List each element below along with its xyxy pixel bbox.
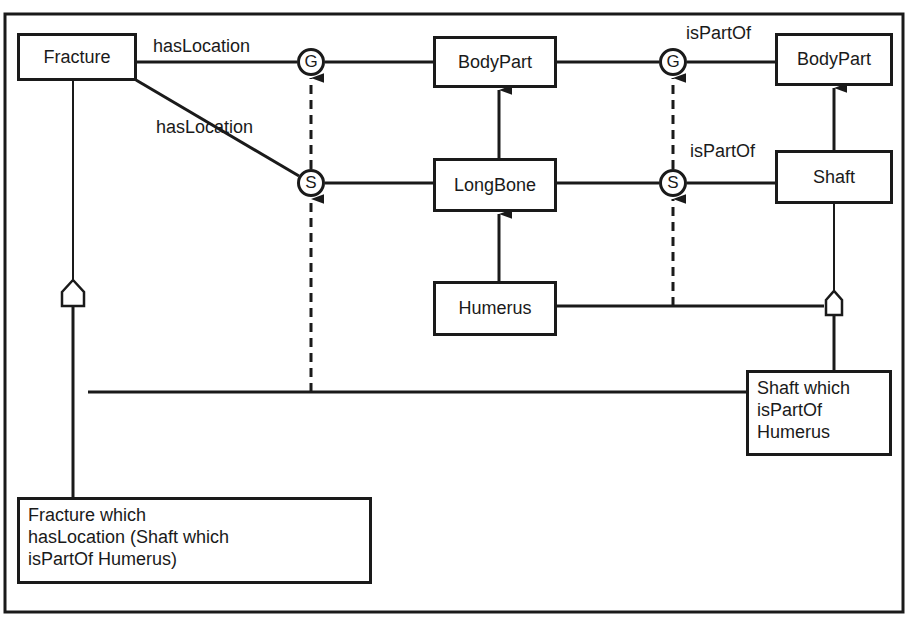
- node-fracture-which: Fracture which hasLocation (Shaft which …: [17, 497, 372, 584]
- generic-node-left-label: G: [304, 52, 317, 72]
- edge-label-haslocation-diag: hasLocation: [156, 117, 253, 138]
- specific-node-left-label: S: [305, 173, 316, 193]
- specific-node-right-label: S: [667, 173, 678, 193]
- node-shaft-which-line-3: Humerus: [757, 421, 881, 443]
- edge-label-ispartof-top: isPartOf: [686, 23, 751, 44]
- node-shaft-which-line-1: Shaft which: [757, 377, 881, 399]
- node-fracture: Fracture: [17, 33, 137, 81]
- generalization-marker-right: [826, 291, 842, 315]
- generalization-marker-left: [62, 280, 84, 306]
- node-shaft-label: Shaft: [813, 167, 855, 188]
- edge-label-ispartof-mid: isPartOf: [690, 141, 755, 162]
- node-longbone-label: LongBone: [454, 175, 536, 196]
- generic-node-left: G: [297, 48, 325, 76]
- node-shaft-which: Shaft which isPartOf Humerus: [746, 370, 892, 456]
- node-bodypart-mid: BodyPart: [433, 36, 557, 88]
- node-bodypart-mid-label: BodyPart: [458, 52, 532, 73]
- node-humerus: Humerus: [433, 281, 557, 336]
- node-shaft: Shaft: [775, 150, 893, 204]
- generic-node-right-label: G: [666, 52, 679, 72]
- node-humerus-label: Humerus: [458, 298, 531, 319]
- node-fracture-which-line-2: hasLocation (Shaft which: [28, 526, 361, 548]
- ontology-diagram: Fracture BodyPart BodyPart LongBone Shaf…: [0, 0, 909, 619]
- node-shaft-which-line-2: isPartOf: [757, 399, 881, 421]
- specific-node-left: S: [297, 169, 325, 197]
- specific-node-right: S: [659, 169, 687, 197]
- node-fracture-label: Fracture: [43, 47, 110, 68]
- node-bodypart-right-label: BodyPart: [797, 49, 871, 70]
- node-bodypart-right: BodyPart: [775, 33, 893, 86]
- edge-label-haslocation-top: hasLocation: [153, 36, 250, 57]
- generic-node-right: G: [659, 48, 687, 76]
- node-fracture-which-line-1: Fracture which: [28, 504, 361, 526]
- node-longbone: LongBone: [433, 158, 557, 212]
- node-fracture-which-line-3: isPartOf Humerus): [28, 548, 361, 570]
